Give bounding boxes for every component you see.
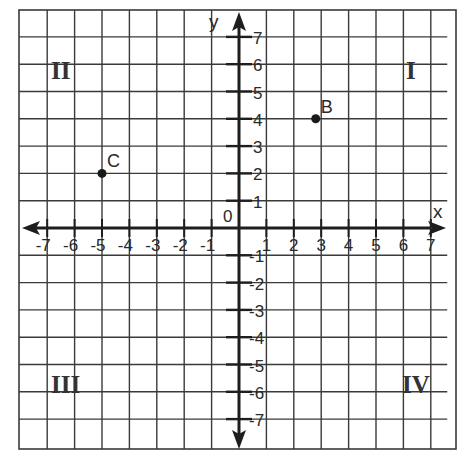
- point-marker: [98, 169, 107, 178]
- coordinate-plane: -7-6-5-4-3-2-112345677654321-1-2-3-4-5-6…: [0, 0, 464, 463]
- y-tick-label: 7: [253, 29, 262, 48]
- x-tick-label: -7: [36, 236, 51, 255]
- x-tick-label: 3: [316, 236, 325, 255]
- y-tick-label: -3: [249, 302, 264, 321]
- x-tick-label: 5: [371, 236, 380, 255]
- y-tick-label: -5: [249, 357, 264, 376]
- y-tick-label: -6: [249, 384, 264, 403]
- origin-label: 0: [223, 207, 232, 226]
- x-tick-label: 2: [289, 236, 298, 255]
- quadrant-III-label: III: [51, 371, 80, 398]
- y-tick-label: 1: [253, 193, 262, 212]
- x-tick-label: 4: [344, 236, 353, 255]
- y-tick-label: -7: [249, 411, 264, 430]
- x-tick-label: -5: [90, 236, 105, 255]
- x-tick-label: -1: [200, 236, 215, 255]
- quadrant-I-label: I: [406, 57, 416, 84]
- point-label: B: [321, 97, 333, 117]
- y-tick-label: 2: [253, 165, 262, 184]
- y-tick-label: 6: [253, 56, 262, 75]
- x-tick-label: -6: [63, 236, 78, 255]
- axes: [22, 12, 446, 449]
- x-axis-label: x: [433, 201, 443, 222]
- y-tick-label: 4: [253, 111, 262, 130]
- x-tick-label: 6: [399, 236, 408, 255]
- y-tick-label: 5: [253, 84, 262, 103]
- x-tick-label: -2: [173, 236, 188, 255]
- point-label: C: [107, 151, 120, 171]
- y-tick-label: -1: [249, 247, 264, 266]
- x-tick-label: -3: [145, 236, 160, 255]
- quadrant-IV-label: IV: [402, 371, 430, 398]
- quadrant-II-label: II: [51, 57, 70, 84]
- x-tick-label: -4: [118, 236, 133, 255]
- data-points: BC: [98, 97, 333, 178]
- y-tick-label: 3: [253, 138, 262, 157]
- y-tick-label: -4: [249, 329, 264, 348]
- y-axis-label: y: [209, 11, 219, 32]
- x-tick-label: 7: [426, 236, 435, 255]
- y-tick-label: -2: [249, 275, 264, 294]
- point-marker: [311, 114, 320, 123]
